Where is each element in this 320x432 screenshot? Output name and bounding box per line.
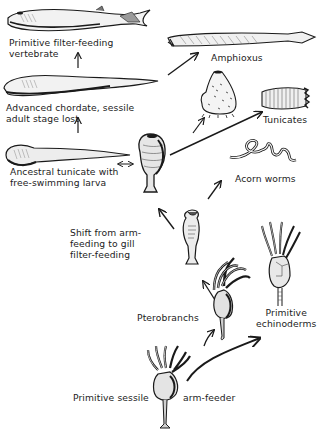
label-amphioxus: Amphioxus (211, 52, 263, 63)
label-line: vertebrate (9, 48, 113, 59)
pterobranch-drawing (214, 258, 250, 340)
tunicates-barrel-drawing (262, 88, 309, 109)
gill-feeder-drawing (183, 210, 199, 264)
label-sessile-armfeeder-left: Primitive sessile (73, 392, 149, 403)
label-echinoderms: Primitive echinoderms (256, 307, 316, 329)
tadpole-larva-drawing (6, 145, 130, 165)
label-acorn-worms: Acorn worms (235, 173, 296, 184)
amphioxus-drawing (168, 32, 315, 46)
label-line: arm-feeder (183, 392, 235, 403)
label-pterobranchs: Pterobranchs (137, 312, 199, 323)
evolution-diagram-artwork (0, 0, 320, 432)
label-line: Primitive sessile (73, 392, 149, 403)
label-line: adult stage lost (6, 113, 134, 124)
label-line: free-swimming larva (10, 177, 119, 188)
arrow-to-pterobranchs (204, 330, 214, 346)
adult-tunicate-drawing (139, 134, 165, 192)
label-sessile-armfeeder-right: arm-feeder (183, 392, 235, 403)
label-line: Pterobranchs (137, 312, 199, 323)
label-line: Amphioxus (211, 52, 263, 63)
label-line: Advanced chordate, sessile (6, 102, 134, 113)
label-line: Ancestral tunicate with (10, 166, 119, 177)
arrow-to-echinoderms (187, 338, 260, 381)
label-tunicates: Tunicates (263, 114, 307, 125)
label-line: Tunicates (263, 114, 307, 125)
label-line: filter-feeding (70, 249, 141, 260)
arrow-to-acorn-worms (208, 181, 221, 199)
label-line: Primitive filter-feeding (9, 37, 113, 48)
arrow-shift-to-tunicate (159, 209, 174, 229)
advanced-chordate-drawing (4, 76, 158, 96)
arrow-to-sessile-tunicate (193, 118, 204, 133)
vertebrate-fish-drawing (8, 6, 150, 31)
label-shift-feeding: Shift from arm- feeding to gill filter-f… (70, 227, 141, 260)
label-line: Shift from arm- (70, 227, 141, 238)
label-line: Acorn worms (235, 173, 296, 184)
label-advanced-chordate: Advanced chordate, sessile adult stage l… (6, 102, 134, 124)
label-line: Primitive (256, 307, 316, 318)
label-line: echinoderms (256, 318, 316, 329)
echinoderm-drawing (262, 222, 300, 306)
label-ancestral-tunicate: Ancestral tunicate with free-swimming la… (10, 166, 119, 188)
acorn-worm-drawing (230, 140, 296, 160)
label-vertebrate: Primitive filter-feeding vertebrate (9, 37, 113, 59)
sessile-tunicate-drawing (201, 70, 236, 118)
sessile-armfeeder-drawing (148, 346, 190, 428)
label-line: feeding to gill (70, 238, 141, 249)
arrow-to-amphioxus (168, 53, 198, 75)
